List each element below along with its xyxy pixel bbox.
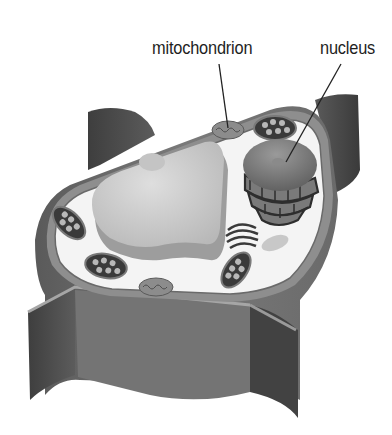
leader-line-mitochondrion <box>219 64 228 128</box>
plant-cell-diagram: mitochondrion nucleus <box>0 0 392 435</box>
nucleus <box>243 139 317 191</box>
cell-wall-fin-left <box>28 287 75 400</box>
mitochondrion-bottom <box>139 278 173 296</box>
nucleolus <box>272 158 284 166</box>
label-mitochondrion: mitochondrion <box>152 37 252 59</box>
label-nucleus: nucleus <box>320 37 375 59</box>
cell-wall-front <box>75 290 250 399</box>
chloroplast <box>254 116 296 140</box>
cell-illustration <box>0 0 392 435</box>
vesicle <box>139 153 165 171</box>
